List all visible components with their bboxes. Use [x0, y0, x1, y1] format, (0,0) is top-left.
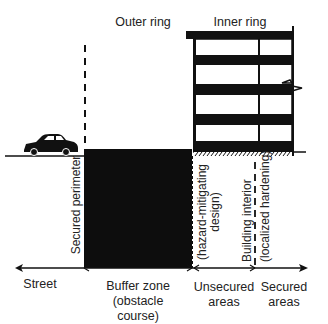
buffer-zone-line-1: Buffer zone — [93, 279, 183, 294]
secured-areas-label: Secured areas — [252, 280, 316, 310]
buffer-zone-label: Buffer zone (obstacle course) — [93, 279, 183, 324]
unsecured-line-2: areas — [192, 295, 256, 310]
secured-line-2: areas — [252, 295, 316, 310]
unsecured-areas-label: Unsecured areas — [192, 280, 256, 310]
outer-ring-label: Outer ring — [108, 15, 178, 30]
street-label: Street — [15, 277, 65, 292]
localized-hardening-label: (localized hardening) — [259, 142, 272, 262]
hazard-line-2: design) — [209, 162, 222, 262]
inner-ring-label: Inner ring — [205, 15, 275, 30]
buffer-zone-line-2: (obstacle course) — [93, 294, 183, 324]
secured-line-1: Secured — [252, 280, 316, 295]
buffer-zone-block — [84, 149, 192, 268]
hazard-mitigating-label: (hazard-mitigating design) — [196, 162, 222, 262]
building-interior-line-1: Building interior — [241, 162, 254, 262]
building-interior-label: Building interior — [241, 162, 254, 262]
car-icon — [24, 134, 78, 156]
secured-perimeter-label: Secured perimeter — [70, 155, 83, 255]
secured-perimeter-text: Secured perimeter — [69, 156, 83, 255]
unsecured-line-1: Unsecured — [192, 280, 256, 295]
building-interior-line-2: (localized hardening) — [259, 142, 272, 262]
building-icon — [186, 26, 306, 156]
